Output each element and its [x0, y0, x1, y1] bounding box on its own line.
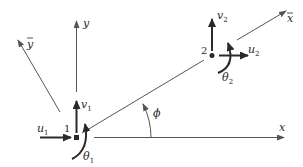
v2-label: v2	[217, 9, 228, 24]
x-bar-axis-label: x	[287, 12, 294, 25]
angle-phi: ϕ	[143, 104, 161, 137]
u1-label: u1	[37, 122, 49, 137]
node-1: 1 u1 v1 θ1	[37, 98, 94, 165]
y-bar-axis-label: y	[26, 38, 34, 51]
node-2: 2 u2 v2 θ2	[201, 9, 260, 86]
v1-label: v1	[81, 98, 92, 113]
node-1-label: 1	[64, 123, 70, 134]
beam-element-diagram: x y y x ϕ 1 u1 v1 θ1 2	[0, 0, 303, 167]
node-1-marker	[74, 135, 79, 140]
y-bar-axis: y	[18, 38, 60, 112]
theta2-label: θ2	[222, 71, 233, 86]
theta2-rotation-arrow-icon	[218, 43, 230, 73]
u2-label: u2	[248, 43, 260, 58]
y-axis-label: y	[82, 17, 90, 30]
x-axis: x	[94, 121, 286, 138]
theta1-label: θ1	[83, 150, 94, 165]
y-axis: y	[77, 17, 91, 92]
node-2-marker	[210, 53, 215, 58]
x-axis-label: x	[279, 121, 286, 134]
x-bar-axis: x	[82, 11, 294, 133]
node-2-label: 2	[201, 45, 207, 56]
phi-label: ϕ	[153, 107, 161, 120]
